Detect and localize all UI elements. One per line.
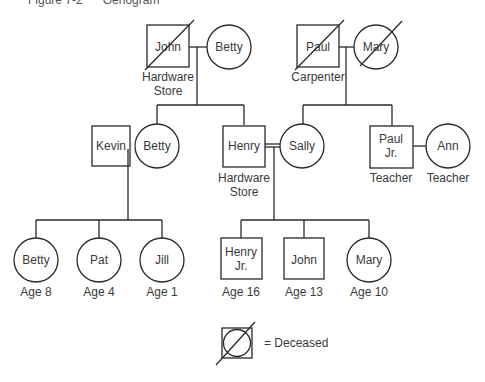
label-child-henry-jr-age: Age 16 (222, 285, 260, 299)
label-kevin: Kevin (96, 139, 126, 153)
label-child-pat: Pat (90, 253, 109, 267)
label-child-pat-age: Age 4 (83, 285, 115, 299)
genogram-diagram: John Hardware Store Betty Paul Carpenter… (0, 0, 485, 382)
label-child-john: John (291, 253, 317, 267)
label-child-mary-age: Age 10 (350, 285, 388, 299)
legend-label: = Deceased (264, 336, 328, 350)
label-ann: Ann (437, 139, 458, 153)
label-john-role2: Store (154, 84, 183, 98)
label-child-jill: Jill (155, 253, 169, 267)
label-child-henry-jr-1: Henry (225, 245, 257, 259)
label-ann-role: Teacher (427, 171, 470, 185)
label-sally: Sally (289, 139, 315, 153)
label-child-jill-age: Age 1 (146, 285, 178, 299)
label-child-mary: Mary (356, 253, 383, 267)
label-child-betty-age: Age 8 (20, 285, 52, 299)
label-henry-role1: Hardware (218, 171, 270, 185)
label-henry: Henry (228, 139, 260, 153)
label-child-betty: Betty (22, 253, 49, 267)
label-paul-jr-1: Paul (379, 132, 403, 146)
label-child-john-age: Age 13 (285, 285, 323, 299)
label-paul-jr-2: Jr. (385, 146, 398, 160)
label-betty-gen1: Betty (215, 40, 242, 54)
label-betty-gen2: Betty (143, 139, 170, 153)
label-john-role1: Hardware (142, 70, 194, 84)
label-paul: Paul (306, 40, 330, 54)
label-mary-gen1: Mary (363, 40, 390, 54)
label-john: John (155, 40, 181, 54)
label-child-henry-jr-2: Jr. (235, 259, 248, 273)
label-paul-role: Carpenter (291, 70, 344, 84)
label-henry-role2: Store (230, 185, 259, 199)
label-paul-jr-role: Teacher (370, 171, 413, 185)
deceased-legend-icon (216, 322, 255, 365)
